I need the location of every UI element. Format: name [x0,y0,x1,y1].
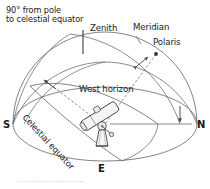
polaris-label: Polaris [153,38,181,48]
cardinal-north-label: N [197,119,205,130]
west-horizon-label: West horizon [79,85,134,95]
angle-note-label: 90° from pole to celestial equator [6,6,83,24]
telescope-icon [76,97,119,146]
cardinal-east-label: E [98,163,105,174]
meridian-label: Meridian [133,23,169,33]
cropped-caption-strip: ·························· [0,180,210,189]
angle-note-line2: to celestial equator [6,15,83,24]
celestial-sphere-diagram: 90° from pole to celestial equator Zenit… [0,0,210,189]
angle-double-arrow-icon [137,57,148,66]
cropped-caption-text: ·························· [18,180,84,187]
cardinal-south-label: S [3,119,10,130]
meridian-leader [136,36,141,44]
zenith-label: Zenith [90,24,117,34]
